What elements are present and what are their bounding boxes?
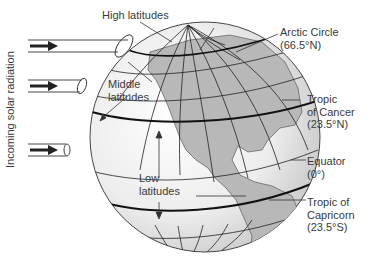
tropic-of-cancer-line1: Tropic	[307, 93, 355, 106]
tropic-of-cancer-line2: of Cancer	[307, 106, 355, 119]
latitude-diagram: Incoming solar radiation High latitudes …	[0, 0, 368, 265]
low-latitudes-line2: latitudes	[139, 185, 180, 198]
middle-latitudes-line2: latitudes	[108, 91, 149, 104]
tropic-of-capricorn-degrees: (23.5°S)	[307, 221, 355, 234]
tropic-of-cancer-label: Tropic of Cancer (23.5°N)	[307, 93, 355, 131]
equator-label: Equator (0°)	[307, 155, 346, 180]
middle-latitudes-line1: Middle	[108, 78, 149, 91]
low-latitudes-label: Low latitudes	[139, 172, 180, 197]
arrow-icons	[30, 41, 58, 155]
arctic-circle-degrees: (66.5°N)	[280, 39, 339, 52]
arctic-circle-name: Arctic Circle	[280, 26, 339, 39]
tropic-of-cancer-degrees: (23.5°N)	[307, 118, 355, 131]
tropic-of-capricorn-label: Tropic of Capricorn (23.5°S)	[307, 196, 355, 234]
high-latitudes-label: High latitudes	[102, 9, 169, 22]
low-latitudes-line1: Low	[139, 172, 180, 185]
equator-degrees: (0°)	[307, 168, 346, 181]
arctic-circle-label: Arctic Circle (66.5°N)	[280, 26, 339, 51]
tropic-of-capricorn-line2: Capricorn	[307, 209, 355, 222]
tropic-of-capricorn-line1: Tropic of	[307, 196, 355, 209]
equator-name: Equator	[307, 155, 346, 168]
incoming-solar-radiation-label: Incoming solar radiation	[4, 51, 16, 168]
middle-latitudes-label: Middle latitudes	[108, 78, 149, 103]
globe	[88, 22, 320, 262]
